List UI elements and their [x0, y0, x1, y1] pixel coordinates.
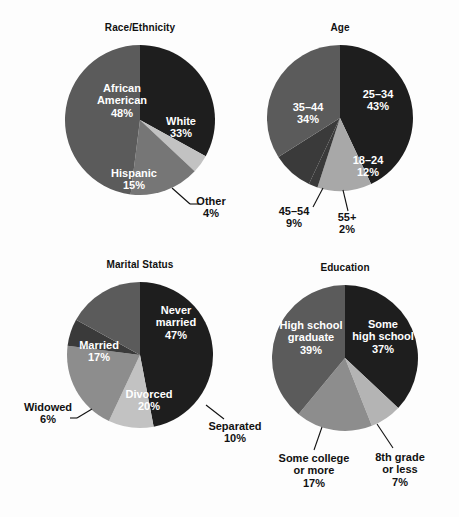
pie-chart-figure: Race/EthnicityWhite 33%Other 4%Hispanic … [0, 0, 459, 517]
leader-some-college [0, 0, 459, 517]
pie-panel-education: EducationSome high school 37%8th grade o… [0, 0, 459, 517]
